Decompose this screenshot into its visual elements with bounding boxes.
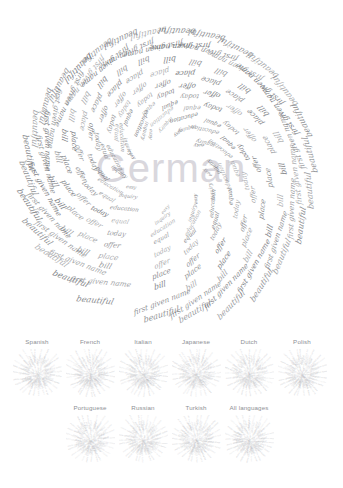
spiral-word: place (70, 131, 80, 153)
spiral-word: equal (183, 104, 202, 113)
spiral-word: bill (53, 151, 65, 164)
language-thumbnail-polish[interactable]: Polishbeautifulbeautifulbeautifulbeautif… (276, 338, 329, 410)
language-thumbnail-panel: Spanishbeautifulbeautifulbeautifulbeauti… (0, 336, 343, 488)
language-thumbnail-all-languages[interactable]: All languagesbeautifulbeautifulbeautiful… (223, 404, 276, 476)
thumbnail-burst-figure: beautifulbeautifulbeautifulbeautifulbeau… (225, 349, 274, 401)
burst-art: beautifulbeautifulbeautifulbeautifulbeau… (13, 349, 62, 401)
language-thumbnail-spanish[interactable]: Spanishbeautifulbeautifulbeautifulbeauti… (11, 338, 64, 410)
thumbnail-label: Spanish (11, 338, 64, 345)
thumbnail-burst-figure: beautifulbeautifulbeautifulbeautifulbeau… (225, 415, 274, 467)
burst-art: beautifulbeautifulbeautifulbeautifulbeau… (225, 349, 274, 401)
spiral-word: bill (276, 193, 285, 208)
spiral-word: today (106, 229, 127, 238)
spiral-word: bill (187, 57, 203, 68)
spiral-word: bill (212, 66, 229, 78)
burst-art: beautifulbeautifulbeautifulbeautifulbeau… (278, 349, 327, 401)
spiral-word: education (109, 204, 140, 213)
language-thumbnail-french[interactable]: Frenchbeautifulbeautifulbeautifulbeautif… (64, 338, 117, 410)
spiral-word: bill (115, 63, 129, 78)
thumbnail-burst-figure: beautifulbeautifulbeautifulbeautifulbeau… (172, 415, 221, 467)
main-spiral-figure: German easyeasyeasyeasyeasyeasyeasyeasyi… (0, 0, 343, 336)
spiral-word: offer (201, 88, 222, 101)
spiral-word: offer (73, 166, 90, 184)
thumbnail-row-1: Spanishbeautifulbeautifulbeautifulbeauti… (0, 338, 343, 410)
thumbnail-label: Polish (276, 338, 329, 345)
thumbnail-burst-figure: beautifulbeautifulbeautifulbeautifulbeau… (172, 349, 221, 401)
language-thumbnail-japanese[interactable]: Japanesebeautifulbeautifulbeautifulbeaut… (170, 338, 223, 410)
language-thumbnail-portuguese[interactable]: Portuguesebeautifulbeautifulbeautifulbea… (64, 404, 117, 476)
language-thumbnail-russian[interactable]: Russianbeautifulbeautifulbeautifulbeauti… (117, 404, 170, 476)
thumbnail-label: French (64, 338, 117, 345)
spiral-word: easy (192, 193, 199, 204)
spiral-word: offer (177, 82, 196, 91)
thumbnail-label: Dutch (223, 338, 276, 345)
spiral-word-cloud-canvas: German easyeasyeasyeasyeasyeasyeasyeasyi… (0, 0, 343, 336)
spiral-word: bill (153, 279, 167, 292)
thumbnail-label: Russian (117, 404, 170, 411)
spiral-word: offer (103, 239, 123, 250)
spiral-word: equal (161, 98, 179, 113)
spiral-word: place (149, 66, 170, 81)
thumbnail-burst-figure: beautifulbeautifulbeautifulbeautifulbeau… (278, 349, 327, 401)
thumbnail-burst-figure: beautifulbeautifulbeautifulbeautifulbeau… (13, 349, 62, 401)
thumbnail-burst-figure: beautifulbeautifulbeautifulbeautifulbeau… (66, 349, 115, 401)
spiral-word: today (221, 119, 242, 136)
burst-art: beautifulbeautifulbeautifulbeautifulbeau… (66, 349, 115, 401)
thumbnail-row-2: Portuguesebeautifulbeautifulbeautifulbea… (0, 404, 343, 476)
spiral-word: beautiful (75, 293, 115, 306)
language-thumbnail-turkish[interactable]: Turkishbeautifulbeautifulbeautifulbeauti… (170, 404, 223, 476)
spiral-word: bill (163, 54, 176, 65)
spiral-word: equal (110, 216, 130, 226)
thumbnail-label: Japanese (170, 338, 223, 345)
spiral-word: place (256, 197, 267, 220)
burst-art: beautifulbeautifulbeautifulbeautifulbeau… (119, 415, 168, 467)
spiral-word: bill (236, 81, 253, 95)
burst-word: equal (89, 419, 93, 426)
spiral-word: offer (248, 185, 258, 204)
spiral-word: place (59, 178, 79, 198)
burst-art: beautifulbeautifulbeautifulbeautifulbeau… (66, 415, 115, 467)
thumbnail-label: Turkish (170, 404, 223, 411)
spiral-word: beautiful (51, 268, 91, 289)
spiral-word: bill (60, 128, 69, 143)
spiral-word: offer (84, 215, 105, 230)
thumbnail-label: All languages (223, 404, 276, 411)
thumbnail-label: Italian (117, 338, 170, 345)
spiral-word: place (263, 167, 275, 188)
language-thumbnail-dutch[interactable]: Dutchbeautifulbeautifulbeautifulbeautifu… (223, 338, 276, 410)
thumbnail-burst-figure: beautifulbeautifulbeautifulbeautifulbeau… (66, 415, 115, 467)
burst-art: beautifulbeautifulbeautifulbeautifulbeau… (225, 415, 274, 467)
spiral-word: today (202, 101, 224, 114)
spiral-word: place (76, 229, 100, 245)
thumbnail-burst-figure: beautifulbeautifulbeautifulbeautifulbeau… (119, 349, 168, 401)
spiral-word: bill (277, 162, 289, 175)
thumbnail-label: Portuguese (64, 404, 117, 411)
figure-page: German easyeasyeasyeasyeasyeasyeasyeasyi… (0, 0, 343, 488)
language-thumbnail-italian[interactable]: Italianbeautifulbeautifulbeautifulbeauti… (117, 338, 170, 410)
burst-art: beautifulbeautifulbeautifulbeautifulbeau… (172, 349, 221, 401)
spiral-word: place (174, 69, 196, 79)
spiral-word: beautiful (302, 171, 315, 209)
spiral-word: today (180, 92, 200, 101)
spiral-word: offer (249, 155, 264, 173)
spiral-word: offer (240, 126, 259, 144)
burst-art: beautifulbeautifulbeautifulbeautifulbeau… (119, 349, 168, 401)
burst-art: beautifulbeautifulbeautifulbeautifulbeau… (172, 415, 221, 467)
thumbnail-burst-figure: beautifulbeautifulbeautifulbeautifulbeau… (119, 415, 168, 467)
